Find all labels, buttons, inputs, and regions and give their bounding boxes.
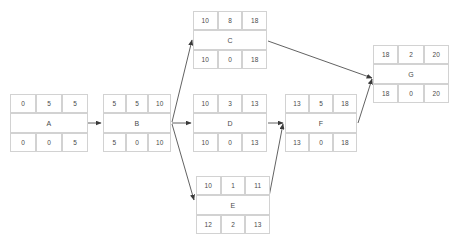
duration-cell: 5 — [36, 94, 62, 113]
early-start-cell: 5 — [103, 94, 126, 113]
node-label-row: B — [103, 113, 171, 133]
early-start-cell: 13 — [285, 94, 309, 113]
late-start-cell: 18 — [373, 84, 398, 103]
early-start-cell: 10 — [196, 176, 221, 195]
duration-cell: 3 — [218, 94, 243, 113]
edge-c-to-g — [268, 41, 372, 78]
node-label-row: D — [193, 113, 267, 133]
early-finish-cell: 18 — [242, 11, 267, 30]
duration-cell: 2 — [398, 45, 423, 64]
edge-f-to-g — [358, 79, 372, 123]
node-label-row: A — [10, 113, 88, 133]
node-top-row: 055 — [10, 94, 88, 113]
late-start-cell: 0 — [10, 133, 36, 152]
activity-node-a[interactable]: 055A005 — [10, 94, 88, 152]
late-finish-cell: 10 — [148, 133, 171, 152]
activity-node-d[interactable]: 10313D10013 — [193, 94, 267, 152]
node-bottom-row: 18020 — [373, 84, 449, 103]
slack-cell: 0 — [218, 133, 243, 152]
slack-cell: 2 — [221, 215, 246, 234]
early-start-cell: 18 — [373, 45, 398, 64]
late-finish-cell: 18 — [333, 133, 357, 152]
node-bottom-row: 10018 — [193, 50, 267, 69]
node-label-row: G — [373, 64, 449, 84]
late-start-cell: 5 — [103, 133, 126, 152]
slack-cell: 0 — [126, 133, 149, 152]
late-start-cell: 13 — [285, 133, 309, 152]
node-top-row: 10313 — [193, 94, 267, 113]
late-finish-cell: 20 — [424, 84, 449, 103]
late-finish-cell: 18 — [242, 50, 267, 69]
duration-cell: 8 — [218, 11, 243, 30]
early-finish-cell: 11 — [245, 176, 270, 195]
late-finish-cell: 5 — [62, 133, 88, 152]
network-diagram-canvas: 055A0055510B501010818C1001810313D1001310… — [0, 0, 458, 243]
edge-e-to-f — [268, 124, 283, 202]
node-bottom-row: 10013 — [193, 133, 267, 152]
activity-node-b[interactable]: 5510B5010 — [103, 94, 171, 152]
activity-label-cell: E — [196, 195, 270, 215]
slack-cell: 0 — [309, 133, 333, 152]
node-bottom-row: 13018 — [285, 133, 357, 152]
node-top-row: 10111 — [196, 176, 270, 195]
late-start-cell: 12 — [196, 215, 221, 234]
early-finish-cell: 13 — [242, 94, 267, 113]
node-top-row: 18220 — [373, 45, 449, 64]
activity-label-cell: G — [373, 64, 449, 84]
node-top-row: 5510 — [103, 94, 171, 113]
early-start-cell: 0 — [10, 94, 36, 113]
activity-label-cell: A — [10, 113, 88, 133]
edge-b-to-c — [172, 40, 192, 122]
duration-cell: 1 — [221, 176, 246, 195]
node-top-row: 13518 — [285, 94, 357, 113]
slack-cell: 0 — [398, 84, 423, 103]
early-start-cell: 10 — [193, 11, 218, 30]
activity-node-c[interactable]: 10818C10018 — [193, 11, 267, 69]
late-start-cell: 10 — [193, 133, 218, 152]
activity-node-e[interactable]: 10111E12213 — [196, 176, 270, 234]
node-bottom-row: 5010 — [103, 133, 171, 152]
node-bottom-row: 12213 — [196, 215, 270, 234]
early-start-cell: 10 — [193, 94, 218, 113]
node-label-row: F — [285, 113, 357, 133]
node-top-row: 10818 — [193, 11, 267, 30]
node-label-row: C — [193, 30, 267, 50]
early-finish-cell: 10 — [148, 94, 171, 113]
early-finish-cell: 5 — [62, 94, 88, 113]
late-finish-cell: 13 — [242, 133, 267, 152]
activity-node-f[interactable]: 13518F13018 — [285, 94, 357, 152]
late-start-cell: 10 — [193, 50, 218, 69]
activity-label-cell: D — [193, 113, 267, 133]
early-finish-cell: 20 — [424, 45, 449, 64]
node-bottom-row: 005 — [10, 133, 88, 152]
slack-cell: 0 — [218, 50, 243, 69]
duration-cell: 5 — [309, 94, 333, 113]
activity-label-cell: B — [103, 113, 171, 133]
late-finish-cell: 13 — [245, 215, 270, 234]
early-finish-cell: 18 — [333, 94, 357, 113]
activity-label-cell: C — [193, 30, 267, 50]
duration-cell: 5 — [126, 94, 149, 113]
edge-b-to-e — [172, 124, 194, 200]
activity-node-g[interactable]: 18220G18020 — [373, 45, 449, 103]
activity-label-cell: F — [285, 113, 357, 133]
node-label-row: E — [196, 195, 270, 215]
slack-cell: 0 — [36, 133, 62, 152]
